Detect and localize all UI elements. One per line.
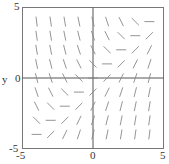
slope-segment <box>106 101 109 110</box>
slope-segment <box>77 130 80 139</box>
slope-segment <box>49 59 51 69</box>
slope-segment <box>78 17 80 27</box>
slope-segment <box>132 46 139 53</box>
slope-segment <box>147 45 151 54</box>
slope-segment <box>133 59 137 68</box>
slope-segment <box>36 59 38 69</box>
slope-segment <box>120 87 123 96</box>
slope-segment <box>134 87 136 97</box>
slope-segment <box>36 45 38 55</box>
slope-segment <box>48 88 52 97</box>
slope-segment <box>64 45 66 55</box>
slope-segment <box>77 45 80 54</box>
slope-segment <box>119 17 123 26</box>
slope-segment <box>120 115 122 125</box>
x-tick-min: -5 <box>16 150 25 161</box>
slope-segment <box>35 87 38 96</box>
slope-segment <box>106 129 108 139</box>
slope-segment <box>146 32 153 39</box>
slope-segment <box>75 103 82 110</box>
x-axis-label: x <box>90 160 96 164</box>
slope-segment <box>120 129 122 139</box>
slope-segment <box>36 17 37 27</box>
slope-segment <box>61 89 68 96</box>
slope-segment <box>120 101 122 111</box>
slope-segment <box>47 131 54 138</box>
slope-segment <box>47 103 54 110</box>
slope-segment <box>104 46 111 53</box>
slope-segment <box>149 101 151 111</box>
slope-segment <box>148 87 150 97</box>
slope-segment <box>149 129 150 139</box>
slope-segment <box>105 31 109 40</box>
slope-segment <box>63 130 67 139</box>
slope-segment <box>118 32 125 39</box>
slope-segment <box>105 88 109 97</box>
slope-segment <box>34 102 38 111</box>
slope-segment <box>77 59 81 68</box>
slope-segment <box>134 115 136 125</box>
y-tick-mid: 0 <box>15 73 21 84</box>
slope-segment <box>64 17 66 27</box>
slope-segment <box>64 31 66 41</box>
slope-segment <box>78 31 80 41</box>
slope-segment <box>77 116 81 125</box>
slope-segment <box>118 60 125 67</box>
y-tick-max: 5 <box>14 1 20 12</box>
y-axis-label: y <box>2 74 8 85</box>
slope-segment <box>106 17 109 26</box>
slope-segment <box>106 115 108 125</box>
slope-segment <box>36 31 37 41</box>
slope-segment <box>148 59 151 68</box>
slope-segment <box>135 129 136 139</box>
x-tick-max: 5 <box>160 150 166 161</box>
slope-segment <box>50 31 52 41</box>
slope-segment <box>132 18 139 25</box>
slope-segment <box>149 115 150 125</box>
slope-segment <box>33 117 40 124</box>
direction-field-plot <box>0 0 169 164</box>
slope-segment <box>61 117 68 124</box>
slope-segment <box>50 17 51 27</box>
slope-segment <box>50 45 52 55</box>
slope-segment <box>134 101 136 111</box>
slope-segment <box>63 59 66 68</box>
